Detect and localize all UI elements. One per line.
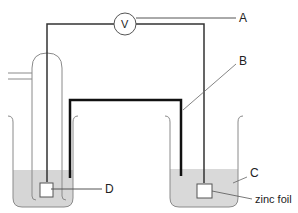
label-b-line: [183, 64, 236, 110]
cell-diagram: [0, 0, 298, 213]
label-c: C: [250, 167, 259, 179]
salt-bridge: [70, 100, 181, 178]
label-d: D: [105, 183, 114, 195]
label-b: B: [239, 55, 247, 67]
electrode-d: [40, 183, 53, 197]
label-zinc-foil: zinc foil: [255, 193, 292, 205]
voltmeter-symbol: V: [121, 18, 128, 30]
label-a: A: [239, 12, 247, 24]
zinc-foil-electrode: [197, 184, 212, 198]
left-wire: [47, 24, 114, 182]
